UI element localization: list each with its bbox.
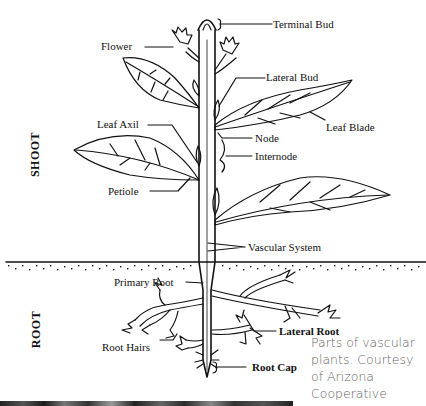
- lateral-root-pointer: [244, 315, 276, 331]
- flower-right: [215, 37, 239, 74]
- root-cap-pointer: [213, 362, 246, 373]
- leaf-middle-left: [74, 136, 201, 180]
- figure-caption: Parts of vascular plants. Courtesy of Ar…: [311, 334, 423, 402]
- lateral-root-upper: [212, 270, 340, 322]
- label-lateral-bud: Lateral Bud: [266, 71, 318, 83]
- section-label-shoot: SHOOT: [28, 132, 43, 177]
- leaf-axil-pointer: [148, 125, 197, 162]
- label-root-cap: Root Cap: [252, 361, 297, 373]
- leaf-lower-right: [213, 177, 390, 225]
- label-vascular-system: Vascular System: [248, 241, 321, 253]
- lateral-root-lower-right: [212, 310, 262, 344]
- leaf-blade-pointer: [310, 112, 325, 120]
- photo-strip: [0, 401, 293, 406]
- vascular-pointer: [208, 243, 245, 251]
- flower-left: [172, 27, 199, 62]
- internode-pointer: [220, 140, 252, 172]
- label-terminal-bud: Terminal Bud: [273, 18, 334, 30]
- label-root-hairs: Root Hairs: [102, 341, 150, 353]
- lateral-bud-pointer: [219, 78, 265, 106]
- section-label-root: ROOT: [29, 311, 44, 348]
- label-node: Node: [255, 132, 279, 144]
- label-flower: Flower: [101, 40, 132, 52]
- terminal-bud-pointer: [218, 19, 272, 30]
- label-internode: Internode: [255, 150, 297, 162]
- label-petiole: Petiole: [108, 185, 139, 197]
- label-leaf-blade: Leaf Blade: [326, 121, 375, 133]
- lateral-root-lower-left: [176, 336, 203, 350]
- label-primary-root: Primary Root: [114, 276, 174, 288]
- leaf-upper-left: [123, 58, 199, 108]
- primary-root-pointer: [186, 282, 203, 283]
- label-leaf-axil: Leaf Axil: [97, 118, 139, 130]
- node-pointer: [218, 133, 252, 138]
